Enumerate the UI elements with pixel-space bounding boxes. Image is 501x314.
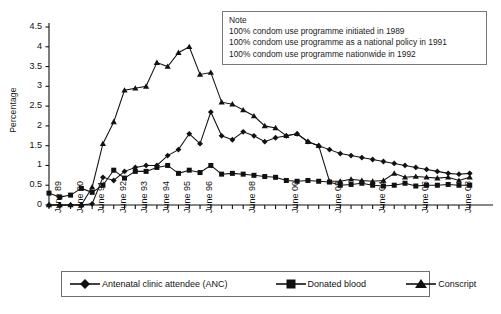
data-point-marker	[68, 193, 73, 198]
data-point-marker	[434, 168, 440, 174]
data-point-marker	[413, 165, 419, 171]
data-point-marker	[154, 165, 159, 170]
data-point-marker	[370, 157, 376, 163]
data-point-marker	[446, 182, 451, 187]
data-point-marker	[445, 174, 451, 179]
data-point-marker	[316, 179, 321, 184]
x-tick-label: June 96	[204, 181, 214, 213]
data-point-marker	[251, 113, 257, 118]
data-point-marker	[456, 183, 461, 188]
y-tick-label: 3	[16, 80, 42, 90]
data-point-marker	[165, 163, 170, 168]
x-tick-label: June 91	[96, 181, 106, 213]
data-point-marker	[100, 141, 106, 146]
x-tick-label: June 98	[247, 181, 257, 213]
data-point-marker	[219, 99, 225, 104]
data-point-marker	[89, 201, 95, 207]
data-point-marker	[111, 119, 117, 124]
x-tick-label: June 95	[182, 181, 192, 213]
data-point-marker	[273, 135, 279, 141]
data-point-marker	[143, 163, 149, 169]
diamond-marker-icon	[68, 277, 102, 291]
note-line-3: 100% condom use programme nationwide in …	[229, 49, 481, 60]
data-point-marker	[359, 155, 365, 161]
y-tick-label: 1.5	[16, 140, 42, 150]
y-tick-label: 2.5	[16, 100, 42, 110]
data-point-marker	[262, 139, 268, 145]
data-point-marker	[456, 171, 462, 177]
data-point-marker	[349, 182, 354, 187]
data-point-marker	[176, 147, 182, 153]
legend-item-anc: Antenatal clinic attendee (ANC)	[68, 277, 228, 291]
legend-item-conscript: Conscript	[404, 277, 476, 291]
data-point-marker	[133, 169, 138, 174]
x-tick-label: June 02	[333, 181, 343, 213]
chart-screenshot: Percentage 00.511.522.533.544.5 June 89J…	[0, 0, 501, 314]
data-point-marker	[111, 168, 116, 173]
y-tick-label: 4.5	[16, 21, 42, 31]
y-tick-label: 2	[16, 120, 42, 130]
data-point-marker	[241, 172, 246, 177]
x-tick-label: June 94	[161, 181, 171, 213]
data-point-marker	[122, 176, 127, 181]
data-point-marker	[208, 163, 213, 168]
data-point-marker	[381, 159, 387, 165]
data-point-marker	[402, 163, 408, 169]
data-point-marker	[337, 151, 343, 157]
x-tick-label: June 06	[420, 181, 430, 213]
data-point-marker	[327, 147, 333, 153]
chart-legend: Antenatal clinic attendee (ANC) Donated …	[61, 271, 430, 297]
x-tick-label: June 92	[118, 181, 128, 213]
data-point-marker	[230, 171, 235, 176]
data-point-marker	[47, 191, 52, 196]
x-tick-label: June 90	[75, 181, 85, 213]
y-tick-label: 4	[16, 41, 42, 51]
data-point-marker	[208, 69, 214, 74]
legend-item-donated-blood: Donated blood	[274, 277, 367, 291]
y-tick-label: 0.5	[16, 179, 42, 189]
y-tick-label: 0	[16, 199, 42, 209]
square-marker-icon	[274, 277, 308, 291]
legend-label-conscript: Conscript	[438, 279, 476, 289]
data-point-marker	[100, 174, 106, 180]
data-point-marker	[251, 173, 256, 178]
note-line-1: 100% condom use programme initiated in 1…	[229, 26, 481, 37]
data-point-marker	[348, 153, 354, 159]
y-tick-label: 3.5	[16, 61, 42, 71]
data-point-marker	[176, 171, 181, 176]
data-point-marker	[89, 184, 95, 189]
data-point-marker	[198, 170, 203, 175]
data-point-marker	[187, 168, 192, 173]
data-point-marker	[413, 184, 418, 189]
data-point-marker	[305, 178, 310, 183]
x-tick-label: June 00	[290, 181, 300, 213]
data-point-marker	[273, 175, 278, 180]
legend-label-donated-blood: Donated blood	[308, 279, 367, 289]
note-box: Note 100% condom use programme initiated…	[222, 11, 487, 65]
data-point-marker	[186, 44, 192, 49]
data-point-marker	[144, 169, 149, 174]
data-point-marker	[251, 133, 257, 139]
data-point-marker	[219, 172, 224, 177]
data-point-marker	[143, 83, 149, 88]
legend-label-anc: Antenatal clinic attendee (ANC)	[102, 279, 228, 289]
data-point-marker	[348, 176, 354, 181]
data-point-marker	[219, 133, 225, 139]
x-tick-label: June 93	[139, 181, 149, 213]
data-point-marker	[240, 107, 246, 112]
data-point-marker	[262, 174, 267, 179]
x-tick-label: June 89	[53, 181, 63, 213]
triangle-marker-icon	[404, 277, 438, 291]
data-point-marker	[435, 183, 440, 188]
data-point-marker	[391, 161, 397, 167]
data-point-marker	[284, 178, 289, 183]
data-point-marker	[154, 60, 160, 65]
note-title: Note	[229, 15, 481, 26]
data-point-marker	[392, 183, 397, 188]
data-point-marker	[467, 174, 473, 179]
data-point-marker	[208, 109, 214, 115]
data-point-marker	[424, 167, 430, 173]
y-tick-label: 1	[16, 159, 42, 169]
data-point-marker	[413, 173, 419, 178]
x-tick-label: June 08	[463, 181, 473, 213]
